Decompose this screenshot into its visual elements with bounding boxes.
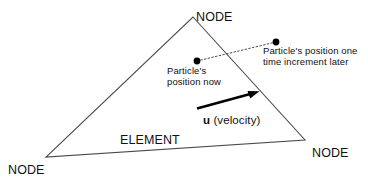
particle-later-line-2: time increment later (263, 57, 357, 68)
element-label: ELEMENT (120, 133, 180, 147)
node-label-bottom-left: NODE (8, 163, 45, 177)
particle-position-now-label: Particle's position now (167, 66, 221, 87)
node-label-top: NODE (196, 10, 233, 24)
particle-advection-diagram: NODE NODE NODE ELEMENT Particle's positi… (0, 0, 368, 185)
velocity-vector-label: u (velocity) (203, 114, 260, 127)
particle-now-line-2: position now (167, 77, 221, 88)
velocity-text: (velocity) (210, 114, 260, 126)
node-label-bottom-right: NODE (312, 146, 349, 160)
particle-position-later-label: Particle's position one time increment l… (263, 46, 357, 67)
velocity-arrow (197, 91, 260, 109)
particle-now-marker (194, 58, 201, 65)
